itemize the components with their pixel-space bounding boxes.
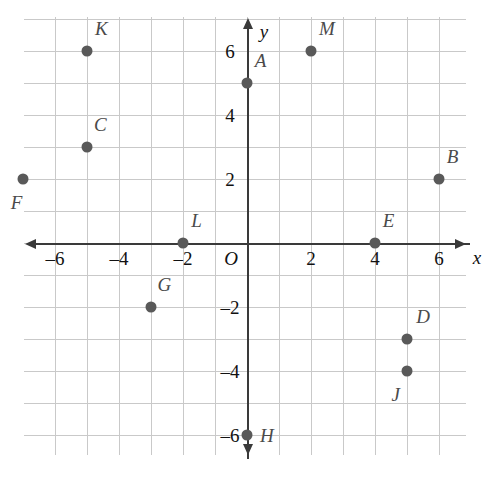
labels-layer: yxO–6–4–2246642–2–4–6ABCDEFGHJKLM [0,0,493,484]
point-label-m: M [319,18,335,37]
y-tick-label: –6 [221,426,240,445]
point-label-a: A [255,50,267,69]
x-tick-label: –4 [110,249,129,268]
x-tick-label: 6 [434,249,444,268]
point-label-j: J [392,385,400,404]
x-tick-label: 4 [370,249,380,268]
y-tick-label: 4 [225,106,235,125]
origin-label: O [224,249,238,268]
coordinate-plane: yxO–6–4–2246642–2–4–6ABCDEFGHJKLM [0,0,493,484]
x-tick-label: –2 [174,249,193,268]
point-label-e: E [383,210,395,229]
point-label-d: D [416,306,430,325]
y-tick-label: 6 [225,42,235,61]
y-axis-name: y [260,22,268,41]
point-label-l: L [191,210,202,229]
point-label-h: H [260,426,274,445]
point-label-k: K [95,18,108,37]
x-axis-name: x [473,248,481,267]
x-tick-label: 2 [306,249,316,268]
point-label-f: F [11,193,23,212]
point-label-c: C [94,114,107,133]
y-tick-label: –4 [221,362,240,381]
y-tick-label: 2 [225,170,235,189]
point-label-b: B [447,146,459,165]
x-tick-label: –6 [46,249,65,268]
point-label-g: G [158,274,172,293]
y-tick-label: –2 [221,298,240,317]
